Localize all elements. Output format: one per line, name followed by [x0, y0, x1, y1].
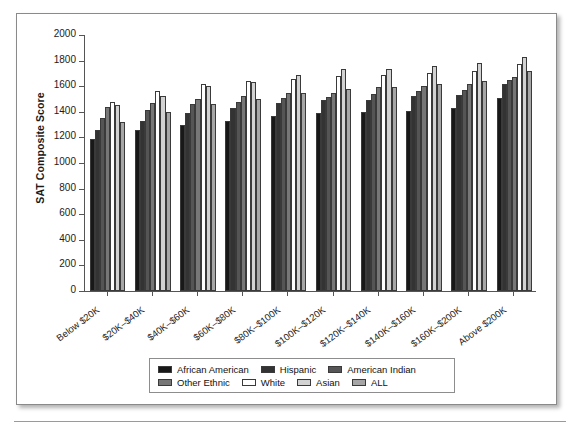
y-axis-title: SAT Composite Score: [34, 63, 46, 233]
legend-item[interactable]: African American: [158, 364, 261, 375]
legend-label: ALL: [371, 377, 388, 388]
y-axis-tick-mark: [79, 112, 84, 113]
y-axis-tick-mark: [79, 137, 84, 138]
y-axis-tick-label: 1600: [54, 79, 76, 90]
bar: [527, 71, 532, 291]
y-axis-tick-label: 200: [59, 258, 76, 269]
legend-label: Hispanic: [280, 364, 316, 375]
legend-label: Other Ethnic: [177, 377, 230, 388]
legend-swatch: [297, 379, 311, 386]
y-axis-tick-label: 1800: [54, 54, 76, 65]
y-axis-tick-mark: [79, 240, 84, 241]
y-axis-tick-mark: [79, 86, 84, 87]
y-axis-tick-mark: [79, 61, 84, 62]
x-axis-tick-mark: [242, 291, 243, 296]
bar: [392, 87, 397, 291]
legend-swatch: [261, 366, 275, 373]
x-axis-tick-mark: [423, 291, 424, 296]
chart-legend: African AmericanHispanicAmerican Indian …: [149, 358, 455, 393]
x-axis-tick-mark: [513, 291, 514, 296]
legend-swatch: [242, 379, 256, 386]
y-axis-line: [84, 35, 85, 292]
y-axis-tick-label: 1400: [54, 105, 76, 116]
bar: [256, 99, 261, 291]
bar-group: [225, 35, 261, 291]
y-axis-tick-mark: [79, 163, 84, 164]
bar-group: [180, 35, 216, 291]
y-axis-tick-label: 2000: [54, 28, 76, 39]
legend-label: African American: [177, 364, 249, 375]
bar-group: [406, 35, 442, 291]
y-axis-tick-mark: [79, 35, 84, 36]
y-axis-tick-mark: [79, 189, 84, 190]
legend-swatch: [328, 366, 342, 373]
y-axis-tick-mark: [79, 214, 84, 215]
bar: [346, 89, 351, 291]
bar: [211, 104, 216, 291]
legend-label: White: [261, 377, 285, 388]
legend-item[interactable]: Asian: [297, 377, 352, 388]
bar: [437, 84, 442, 291]
legend-item[interactable]: Other Ethnic: [158, 377, 242, 388]
y-axis-tick-label: 400: [59, 233, 76, 244]
page-divider-rule: [14, 421, 566, 422]
x-axis-tick-mark: [468, 291, 469, 296]
y-axis-tick-label: 800: [59, 182, 76, 193]
bar: [166, 112, 171, 291]
bar-group: [497, 35, 533, 291]
plot-area: 0200400600800100012001400160018002000 Be…: [84, 35, 536, 291]
y-axis-tick-label: 0: [70, 284, 76, 295]
y-axis-tick-label: 600: [59, 207, 76, 218]
bar: [120, 122, 125, 291]
legend-swatch: [158, 379, 172, 386]
bar-group: [361, 35, 397, 291]
bar-group: [90, 35, 126, 291]
legend-row-1: African AmericanHispanicAmerican Indian: [158, 363, 448, 376]
bar-group: [451, 35, 487, 291]
bar: [482, 81, 487, 291]
x-axis-tick-mark: [378, 291, 379, 296]
x-axis-tick-mark: [287, 291, 288, 296]
x-axis-tick-mark: [333, 291, 334, 296]
legend-item[interactable]: White: [242, 377, 297, 388]
legend-swatch: [158, 366, 172, 373]
legend-label: American Indian: [347, 364, 416, 375]
bar-group: [316, 35, 352, 291]
y-axis-tick-mark: [79, 291, 84, 292]
bar: [301, 93, 306, 291]
legend-item[interactable]: Hispanic: [261, 364, 328, 375]
figure-frame: SAT Composite Score 02004006008001000120…: [16, 13, 557, 405]
x-axis-tick-mark: [197, 291, 198, 296]
x-axis-tick-mark: [107, 291, 108, 296]
chart-plot-wrapper: SAT Composite Score 02004006008001000120…: [17, 14, 558, 406]
legend-item[interactable]: American Indian: [328, 364, 428, 375]
bar-group: [271, 35, 307, 291]
y-axis-tick-label: 1200: [54, 130, 76, 141]
legend-item[interactable]: ALL: [352, 377, 400, 388]
y-axis-tick-mark: [79, 265, 84, 266]
y-axis-tick-label: 1000: [54, 156, 76, 167]
legend-row-2: Other EthnicWhiteAsianALL: [158, 376, 448, 389]
legend-swatch: [352, 379, 366, 386]
bar-group: [135, 35, 171, 291]
legend-label: Asian: [316, 377, 340, 388]
x-axis-tick-mark: [152, 291, 153, 296]
